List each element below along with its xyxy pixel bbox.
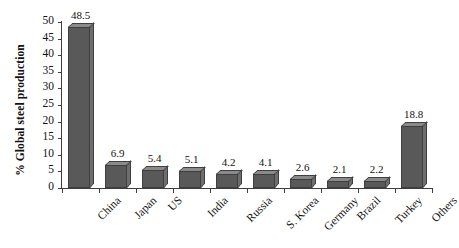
bar-value-label: 18.8 (394, 108, 434, 120)
y-tick-label: 20 (43, 114, 55, 126)
bar-front-face (142, 170, 164, 188)
bar-front-face (216, 174, 238, 188)
bar-value-label: 4.2 (209, 156, 249, 168)
bar-front-face (253, 174, 275, 188)
bar-top-face (364, 177, 391, 181)
bar-top-face (290, 175, 317, 179)
x-tick-mark (99, 188, 100, 193)
y-tick-label: 40 (43, 47, 55, 59)
bar[interactable] (105, 165, 127, 188)
bar-side-face (90, 22, 94, 188)
bar-top-face (401, 122, 428, 126)
y-tick-label: 45 (43, 31, 55, 43)
y-tick-label: 10 (43, 147, 55, 159)
y-tick-label: 30 (43, 80, 55, 92)
y-tick-mark (58, 155, 62, 156)
x-tick-mark (62, 188, 63, 193)
x-tick-mark (284, 188, 285, 193)
x-tick-mark (136, 188, 137, 193)
bar-side-face (423, 121, 427, 188)
y-tick-mark (58, 72, 62, 73)
x-axis-label: Russia (243, 194, 273, 224)
x-axis-label: Others (428, 194, 458, 224)
bar[interactable] (142, 170, 164, 188)
bar-value-label: 48.5 (61, 9, 101, 21)
y-tick-mark (58, 122, 62, 123)
bar-value-label: 5.1 (172, 153, 212, 165)
y-tick-label: 15 (43, 130, 55, 142)
y-tick-label: 0 (48, 180, 54, 192)
x-tick-mark (358, 188, 359, 193)
y-tick-label: 5 (48, 163, 54, 175)
plot-area: 5045403530252015105048.56.95.45.14.24.12… (62, 22, 432, 188)
bar-front-face (364, 181, 386, 188)
x-axis-label: Brazil (354, 194, 382, 222)
x-tick-mark (173, 188, 174, 193)
y-tick-mark (58, 88, 62, 89)
bar-front-face (105, 165, 127, 188)
x-axis-label: S. Korea (283, 194, 320, 231)
bar-front-face (68, 27, 90, 188)
bar-value-label: 4.1 (246, 156, 286, 168)
bar-front-face (179, 171, 201, 188)
bar-value-label: 6.9 (98, 147, 138, 159)
x-tick-mark (321, 188, 322, 193)
bar-top-face (327, 177, 354, 181)
x-tick-mark (247, 188, 248, 193)
y-tick-mark (58, 22, 62, 23)
y-axis-title: % Global steel production (14, 20, 26, 200)
bar[interactable] (401, 126, 423, 188)
y-tick-label: 25 (43, 97, 55, 109)
bar-value-label: 5.4 (135, 152, 175, 164)
y-tick-mark (58, 138, 62, 139)
y-tick-mark (58, 105, 62, 106)
bar-front-face (401, 126, 423, 188)
bar-value-label: 2.6 (283, 161, 323, 173)
bar-top-face (253, 170, 280, 174)
bar[interactable] (253, 174, 275, 188)
bar-top-face (105, 161, 132, 165)
y-tick-mark (58, 171, 62, 172)
bar-value-label: 2.2 (357, 163, 397, 175)
bar[interactable] (364, 181, 386, 188)
bar[interactable] (327, 181, 349, 188)
bar[interactable] (216, 174, 238, 188)
x-tick-mark (395, 188, 396, 193)
bar[interactable] (179, 171, 201, 188)
bar-value-label: 2.1 (320, 163, 360, 175)
x-axis-label: Japan (131, 194, 158, 221)
bar-top-face (68, 23, 95, 27)
bar-front-face (327, 181, 349, 188)
bar-top-face (216, 170, 243, 174)
x-tick-mark (432, 188, 433, 193)
bar[interactable] (68, 27, 90, 188)
bar[interactable] (290, 179, 312, 188)
x-axis-label: Turkey (392, 194, 424, 226)
x-axis-label: China (95, 194, 123, 222)
y-tick-mark (58, 39, 62, 40)
y-tick-label: 50 (43, 14, 55, 26)
x-axis-label: India (204, 194, 229, 219)
bar-top-face (142, 166, 169, 170)
y-tick-label: 35 (43, 64, 55, 76)
bar-top-face (179, 167, 206, 171)
x-tick-mark (210, 188, 211, 193)
x-axis-label: US (165, 194, 184, 213)
bar-front-face (290, 179, 312, 188)
y-tick-mark (58, 55, 62, 56)
